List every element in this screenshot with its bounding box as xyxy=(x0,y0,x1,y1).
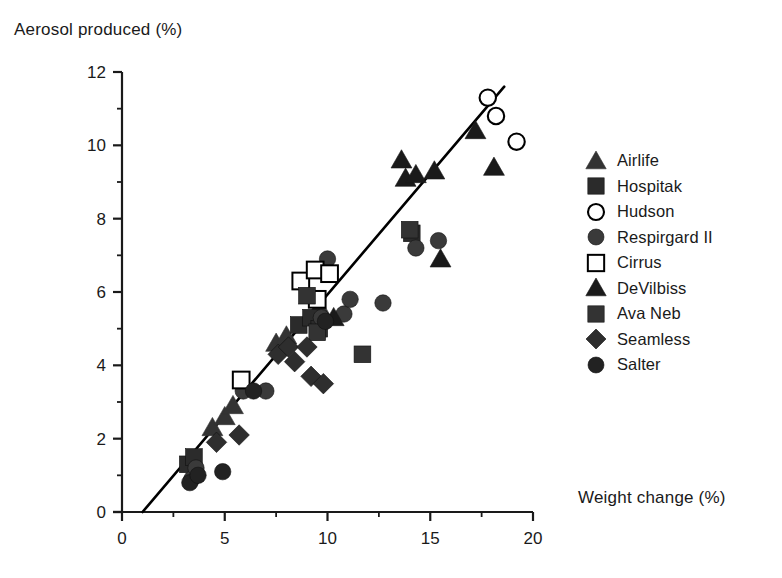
square-textured-icon xyxy=(584,303,608,325)
legend: AirlifeHospitakHudsonRespirgard IICirrus… xyxy=(584,148,782,378)
legend-item-label: Respirgard II xyxy=(617,228,713,247)
data-point xyxy=(430,232,446,248)
svg-text:2: 2 xyxy=(97,430,106,449)
triangle-solid-icon xyxy=(584,277,608,299)
data-point xyxy=(508,133,524,149)
square-open-icon xyxy=(584,252,608,274)
data-point xyxy=(354,346,371,363)
data-point xyxy=(342,291,358,307)
legend-item-label: Cirrus xyxy=(617,253,662,272)
legend-item-hospitak[interactable]: Hospitak xyxy=(584,174,782,200)
legend-item-cirrus[interactable]: Cirrus xyxy=(584,250,782,276)
data-point xyxy=(401,221,418,238)
svg-text:10: 10 xyxy=(87,136,106,155)
data-points xyxy=(179,89,524,490)
svg-text:0: 0 xyxy=(117,529,126,548)
circle-open-icon xyxy=(584,201,608,223)
circle-filled-dark-icon xyxy=(584,354,608,376)
legend-item-label: Airlife xyxy=(617,151,659,170)
svg-text:12: 12 xyxy=(87,63,106,82)
square-filled-icon xyxy=(584,175,608,197)
legend-item-label: Salter xyxy=(617,355,661,374)
legend-item-ava-neb[interactable]: Ava Neb xyxy=(584,301,782,327)
data-point xyxy=(229,425,250,446)
legend-item-airlife[interactable]: Airlife xyxy=(584,148,782,174)
data-point xyxy=(424,161,445,179)
triangle-filled-icon xyxy=(584,150,608,172)
data-point xyxy=(317,313,333,329)
legend-item-label: Hospitak xyxy=(617,177,682,196)
data-point xyxy=(480,89,496,105)
svg-text:6: 6 xyxy=(97,283,106,302)
data-point xyxy=(214,463,230,479)
svg-text:4: 4 xyxy=(97,356,106,375)
data-point xyxy=(375,295,391,311)
circle-filled-icon xyxy=(584,226,608,248)
data-point xyxy=(299,287,316,304)
legend-item-seamless[interactable]: Seamless xyxy=(584,327,782,353)
data-point xyxy=(488,108,504,124)
legend-item-salter[interactable]: Salter xyxy=(584,352,782,378)
svg-text:0: 0 xyxy=(97,503,106,522)
svg-text:20: 20 xyxy=(524,529,543,548)
legend-item-label: Seamless xyxy=(617,330,690,349)
legend-item-label: Ava Neb xyxy=(617,304,681,323)
data-point xyxy=(391,150,412,168)
data-point xyxy=(190,467,206,483)
svg-text:8: 8 xyxy=(97,210,106,229)
legend-item-label: DeVilbiss xyxy=(617,279,686,298)
legend-item-respirgard-ii[interactable]: Respirgard II xyxy=(584,225,782,251)
data-point xyxy=(245,383,261,399)
data-point xyxy=(430,249,451,267)
legend-item-hudson[interactable]: Hudson xyxy=(584,199,782,225)
data-point xyxy=(321,265,338,282)
data-point xyxy=(408,240,424,256)
svg-text:5: 5 xyxy=(220,529,229,548)
scatter-plot-figure: Aerosol produced (%) Weight change (%) 0… xyxy=(0,0,782,578)
series-hudson xyxy=(480,89,525,149)
svg-text:10: 10 xyxy=(318,529,337,548)
data-point xyxy=(484,157,505,175)
legend-item-devilbiss[interactable]: DeVilbiss xyxy=(584,276,782,302)
diamond-filled-icon xyxy=(584,328,608,350)
legend-item-label: Hudson xyxy=(617,202,674,221)
svg-text:15: 15 xyxy=(421,529,440,548)
